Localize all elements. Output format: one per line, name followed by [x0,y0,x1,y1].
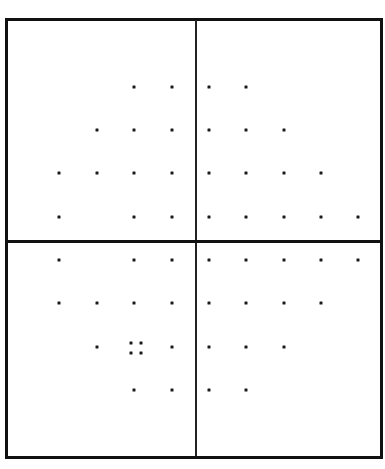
grid-dot [96,302,99,305]
grid-dot [245,172,248,175]
grid-dot [320,216,323,219]
grid-dot [96,129,99,132]
grid-dot [133,172,136,175]
cluster-dot [140,342,143,345]
grid-dot [58,259,61,262]
grid-dot [133,389,136,392]
grid-dot [283,302,286,305]
grid-dot [96,346,99,349]
grid-dot [58,172,61,175]
grid-dot [58,302,61,305]
grid-dot [283,172,286,175]
grid-dot [58,216,61,219]
grid-dot [320,302,323,305]
grid-dot [283,346,286,349]
grid-dot [283,129,286,132]
grid-dot [245,129,248,132]
grid-dot [320,259,323,262]
grid-dot [357,259,360,262]
grid-dot [133,216,136,219]
grid-dot [245,259,248,262]
diagram-canvas [0,0,385,469]
grid-dot [208,346,211,349]
grid-dot [208,389,211,392]
grid-dot [208,216,211,219]
grid-dot [208,172,211,175]
grid-dot [171,259,174,262]
grid-dot [171,172,174,175]
grid-dot [171,129,174,132]
grid-dot [245,389,248,392]
grid-dot [133,129,136,132]
cluster-dot [130,342,133,345]
grid-dot [208,86,211,89]
grid-dot [208,302,211,305]
grid-dot [171,216,174,219]
grid-dot [171,302,174,305]
grid-dot [283,259,286,262]
grid-dot [283,216,286,219]
outer-frame [5,18,383,459]
grid-dot [133,259,136,262]
grid-dot [171,389,174,392]
horizontal-axis-line [7,240,380,243]
grid-dot [133,86,136,89]
cluster-dot [130,352,133,355]
cluster-dot [140,352,143,355]
grid-dot [245,216,248,219]
grid-dot [245,346,248,349]
grid-dot [171,346,174,349]
grid-dot [245,86,248,89]
vertical-axis-line [195,20,197,456]
grid-dot [357,216,360,219]
grid-dot [208,259,211,262]
grid-dot [171,86,174,89]
grid-dot [133,302,136,305]
grid-dot [320,172,323,175]
grid-dot [96,172,99,175]
grid-dot [245,302,248,305]
grid-dot [208,129,211,132]
